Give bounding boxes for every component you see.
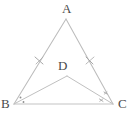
angle-mark-b-upper — [20, 97, 22, 99]
angle-mark-b-lower — [23, 101, 25, 103]
vertex-label-c: C — [118, 97, 127, 110]
segment-ac — [66, 19, 113, 104]
vertex-label-a: A — [62, 2, 71, 15]
vertex-label-b: B — [1, 97, 10, 110]
angle-mark-c-lower — [100, 99, 104, 102]
vertex-label-d: D — [58, 59, 67, 72]
segment-dc — [67, 76, 113, 104]
geometry-diagram: A B C D — [0, 0, 135, 120]
triangle-figure — [0, 0, 135, 120]
